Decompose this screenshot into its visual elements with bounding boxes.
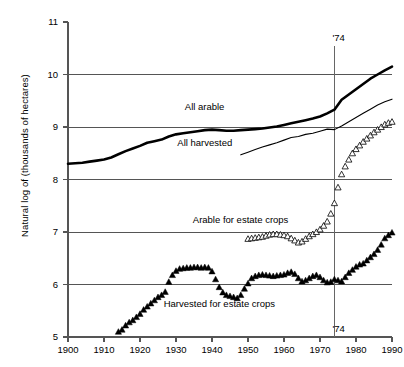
reference-label-1974-top: '74 (332, 32, 344, 43)
data-point-marker (245, 280, 251, 286)
y-tick-label-7: 7 (36, 226, 58, 237)
plot-area (0, 0, 404, 367)
x-tick-label-1960: 1960 (264, 344, 304, 355)
data-point-marker (331, 200, 337, 206)
x-tick-label-1970: 1970 (300, 344, 340, 355)
data-point-marker (213, 276, 219, 282)
y-tick-label-11: 11 (36, 16, 58, 27)
data-point-marker (241, 286, 247, 292)
series-line (68, 67, 392, 164)
y-tick-label-9: 9 (36, 121, 58, 132)
y-tick-label-10: 10 (36, 69, 58, 80)
data-point-marker (342, 163, 348, 169)
chart-container: Natural log of (thousands of hectares) 5… (0, 0, 404, 367)
series-label-all-harvested: All harvested (177, 137, 232, 148)
x-tick-label-1940: 1940 (192, 344, 232, 355)
x-tick-label-1920: 1920 (120, 344, 160, 355)
series-label-all-arable: All arable (185, 101, 225, 112)
data-point-marker (162, 289, 168, 295)
data-point-marker (324, 218, 330, 224)
y-tick-label-5: 5 (36, 331, 58, 342)
x-tick-label-1980: 1980 (336, 344, 376, 355)
data-point-marker (346, 156, 352, 162)
data-point-marker (375, 247, 381, 253)
x-tick-label-1930: 1930 (156, 344, 196, 355)
data-point-marker (166, 279, 172, 285)
data-point-marker (238, 292, 244, 298)
data-point-marker (378, 242, 384, 248)
x-tick-label-1900: 1900 (48, 344, 88, 355)
series-arable-for-estate-crops (245, 119, 395, 245)
x-tick-label-1990: 1990 (372, 344, 404, 355)
x-tick-label-1950: 1950 (228, 344, 268, 355)
data-point-marker (328, 211, 334, 217)
series-label-arable-for-estate-crops: Arable for estate crops (193, 214, 289, 225)
y-tick-label-8: 8 (36, 174, 58, 185)
data-point-marker (389, 119, 395, 125)
data-point-marker (339, 171, 345, 177)
series-harvested-for-estate-crops (115, 229, 395, 334)
series-label-harvested-for-estate-crops: Harvested for estate crops (164, 298, 275, 309)
reference-label-1974-bottom: '74 (332, 323, 344, 334)
x-tick-label-1910: 1910 (84, 344, 124, 355)
series-all-arable (68, 67, 392, 164)
y-tick-label-6: 6 (36, 279, 58, 290)
data-point-marker (335, 184, 341, 190)
